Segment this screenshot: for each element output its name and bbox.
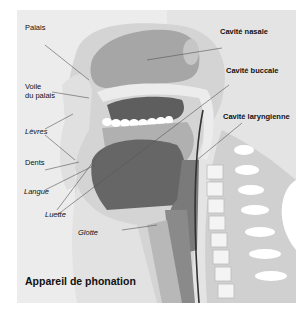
label-cavite-buccale: Cavité buccale	[226, 66, 279, 75]
label-voile: Voile	[25, 82, 41, 91]
phonation-diagram: Palais Voile du palais Lèvres Dents Lang…	[17, 10, 296, 303]
label-cavite-nasale: Cavité nasale	[220, 27, 268, 36]
label-glotte: Glotte	[78, 228, 98, 237]
anatomy-illustration	[17, 10, 296, 303]
figure-caption: Appareil de phonation	[25, 275, 136, 287]
label-dents: Dents	[25, 158, 45, 167]
label-palais: Palais	[25, 23, 45, 32]
label-levres: Lèvres	[25, 127, 48, 136]
label-cavite-laryngienne: Cavité laryngienne	[223, 112, 290, 121]
label-du-palais: du palais	[25, 91, 55, 100]
label-luette: Luette	[45, 210, 66, 219]
label-langue: Langue	[24, 187, 49, 196]
